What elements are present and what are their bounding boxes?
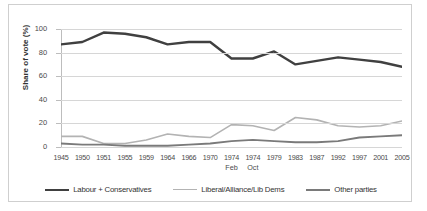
chart-legend: Labour + ConservativesLiberal/Alliance/L… — [9, 185, 413, 194]
y-axis-title: Share of vote (%) — [21, 8, 30, 108]
y-axis-tick-label: 80 — [17, 48, 47, 57]
series-lines — [61, 29, 402, 147]
gridline — [61, 29, 402, 30]
legend-swatch — [173, 189, 197, 190]
legend-item[interactable]: Labour + Conservatives — [45, 185, 151, 194]
y-axis-tick-label: 60 — [17, 71, 47, 80]
gridline — [61, 123, 402, 124]
gridline — [61, 76, 402, 77]
legend-item[interactable]: Other parties — [306, 185, 376, 194]
x-axis-tick-sublabel: Oct — [238, 163, 268, 172]
gridline — [61, 53, 402, 54]
legend-swatch — [45, 189, 69, 191]
legend-label: Other parties — [334, 185, 376, 194]
plot-area — [61, 29, 402, 147]
y-axis-tick-label: 0 — [17, 142, 47, 151]
chart-frame: Share of vote (%) 020406080100 194519501… — [8, 4, 412, 202]
legend-label: Liberal/Alliance/Lib Dems — [201, 185, 284, 194]
x-axis-tick-label: 2005 — [387, 153, 417, 162]
legend-label: Labour + Conservatives — [73, 185, 151, 194]
series-line — [61, 135, 402, 146]
legend-item[interactable]: Liberal/Alliance/Lib Dems — [173, 185, 284, 194]
y-axis-tick-label: 100 — [17, 24, 47, 33]
y-axis-tick-label: 20 — [17, 118, 47, 127]
gridline — [61, 100, 402, 101]
series-line — [61, 33, 402, 67]
gridline — [61, 147, 402, 148]
legend-swatch — [306, 189, 330, 191]
y-axis-tick-label: 40 — [17, 95, 47, 104]
